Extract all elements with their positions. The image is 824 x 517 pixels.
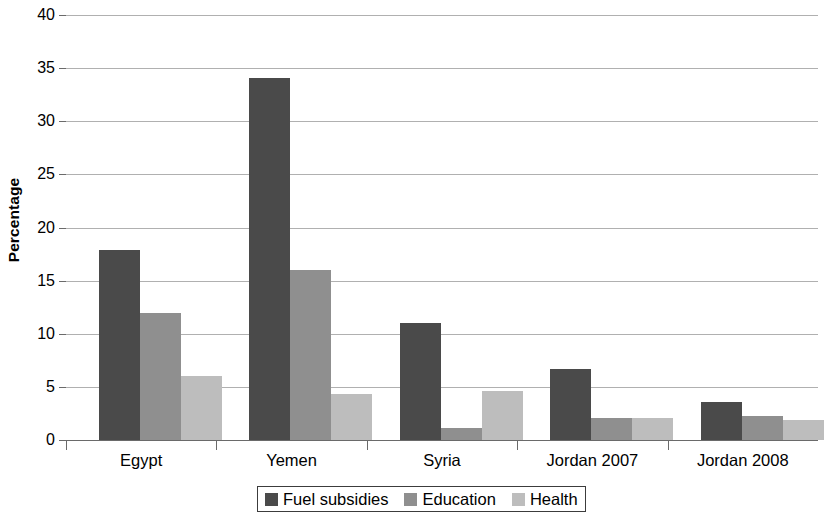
bar [783,420,824,440]
bar [99,250,140,440]
x-axis-tick-label: Jordan 2007 [517,450,667,470]
y-axis-tick-label: 10 [3,326,55,342]
y-axis-tick-labels: 0510152025303540 [0,0,55,460]
x-axis-tick-label: Syria [367,450,517,470]
y-axis-tick-label: 30 [3,113,55,129]
gridline [66,174,818,175]
bar [632,418,673,440]
bar [550,369,591,440]
x-axis-tick-label: Egypt [66,450,216,470]
bar [290,270,331,440]
legend-entry: Education [404,490,495,508]
x-axis-separator [668,441,669,450]
x-axis-line [66,440,818,441]
legend-label: Education [422,490,495,508]
legend-label: Fuel subsidies [283,490,388,508]
bar [441,428,482,440]
legend-swatch-icon [404,493,417,506]
y-axis-tick-label: 5 [3,379,55,395]
bar [701,402,742,440]
legend-entry: Health [512,490,578,508]
y-axis-tick-label: 35 [3,60,55,76]
x-axis-separator [216,441,217,450]
bar [591,418,632,440]
plot-area [66,15,818,440]
bar [742,416,783,440]
bar [140,313,181,441]
bar [400,323,441,440]
gridline [66,228,818,229]
legend-entry: Fuel subsidies [265,490,388,508]
bar [249,78,290,440]
bar [331,394,372,440]
bar [181,376,222,440]
gridline [66,281,818,282]
legend-swatch-icon [512,493,525,506]
gridline [66,68,818,69]
legend-label: Health [530,490,578,508]
gridline [66,121,818,122]
x-axis-tick-label: Jordan 2008 [668,450,818,470]
y-axis-tick-label: 15 [3,273,55,289]
y-axis-tick-label: 0 [3,432,55,448]
x-axis-separator [367,441,368,450]
gridline [66,15,818,16]
x-axis-tick-label: Yemen [216,450,366,470]
x-axis-separator [66,441,67,450]
bar [482,391,523,440]
legend-swatch-icon [265,493,278,506]
legend: Fuel subsidiesEducationHealth [257,486,586,512]
x-axis-separator [517,441,518,450]
y-axis-tick-label: 25 [3,166,55,182]
y-axis-tick-label: 40 [3,7,55,23]
y-axis-tick-label: 20 [3,220,55,236]
